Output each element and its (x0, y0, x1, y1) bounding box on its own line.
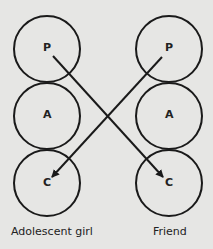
left-a-label: A (43, 108, 52, 121)
right-a-label: A (165, 108, 174, 121)
left-c-label: C (43, 176, 51, 189)
right-c-label: C (165, 176, 173, 189)
left-caption: Adolescent girl (11, 225, 93, 238)
right-caption: Friend (153, 225, 187, 238)
right-p-label: P (165, 41, 173, 54)
transaction-diagram (0, 0, 213, 249)
left-p-label: P (43, 41, 51, 54)
